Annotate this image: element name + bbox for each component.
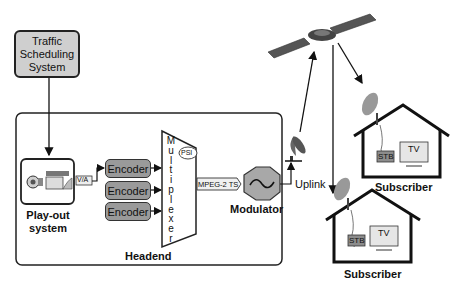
modulator-label: Modulator	[230, 203, 283, 215]
headend-label: Headend	[125, 250, 171, 262]
uplink-dish-icon	[285, 135, 308, 161]
subscriber-label-1: Subscriber	[375, 181, 432, 193]
traffic-scheduling-system-box: Traffic Scheduling System	[14, 30, 80, 78]
traffic-label-line1: Traffic	[20, 35, 74, 48]
satellite-icon	[268, 14, 376, 58]
subscriber-label-2: Subscriber	[344, 268, 401, 280]
psi-label: PSI	[181, 149, 192, 156]
playout-label-line1: Play-out	[20, 209, 76, 222]
encoder-1: Encoder	[105, 159, 151, 178]
encoder-2: Encoder	[105, 181, 151, 200]
mpeg-ts-label: MPEG-2 TS	[198, 180, 238, 189]
encoder-3: Encoder	[105, 202, 151, 221]
va-to-encoder-arrow	[92, 168, 104, 181]
multiplexer-label: M u l t i p l e x e r	[165, 136, 177, 244]
stb-label-2: STB	[349, 236, 365, 245]
playout-label-line2: system	[20, 222, 76, 235]
traffic-label-line2: Scheduling	[20, 48, 74, 61]
uplink-label: Uplink	[295, 178, 326, 190]
va-label: V/A	[77, 176, 88, 183]
stb-label-1: STB	[378, 152, 394, 161]
traffic-label-line3: System	[20, 61, 74, 74]
playout-system-label: Play-out system	[20, 209, 76, 235]
tv-label-1: TV	[408, 144, 420, 154]
tv-label-2: TV	[378, 228, 390, 238]
subscriber-house-1	[354, 90, 449, 177]
